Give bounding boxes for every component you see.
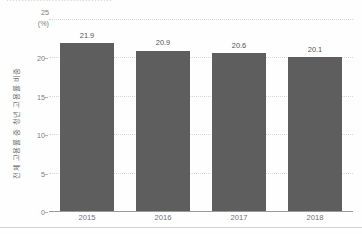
bar-2017[interactable]	[212, 53, 265, 211]
bar-slot-2018: 20.1	[277, 19, 353, 211]
y-axis-top-value: 25	[31, 8, 49, 19]
plot-area: 05101520 21.920.920.620.1	[49, 19, 353, 211]
y-tick-mark-20	[45, 58, 48, 59]
cut-off-title-strip: ···································	[0, 0, 362, 7]
bar-chart-figure: ··································· 25 (…	[0, 0, 362, 234]
x-axis-label-2017: 2017	[201, 213, 277, 222]
gridline-0: 0	[49, 211, 353, 212]
bar-value-label-2017: 20.6	[232, 41, 246, 50]
y-tick-mark-10	[45, 135, 48, 136]
bar-2015[interactable]	[60, 43, 113, 211]
bar-2018[interactable]	[288, 57, 341, 211]
bar-slot-2015: 21.9	[49, 19, 125, 211]
y-tick-mark-5	[45, 174, 48, 175]
y-axis-title-wrapper: 전체 고용률 중 청년 고용률 비중	[7, 48, 23, 198]
x-axis-label-2016: 2016	[125, 213, 201, 222]
bar-value-label-2018: 20.1	[308, 45, 322, 54]
bar-slot-2016: 20.9	[125, 19, 201, 211]
y-tick-mark-15	[45, 97, 48, 98]
bottom-divider	[0, 227, 362, 228]
x-axis-label-2018: 2018	[277, 213, 353, 222]
bars-group: 21.920.920.620.1	[49, 19, 353, 211]
bar-value-label-2016: 20.9	[156, 38, 170, 47]
y-tick-label-10: 10	[37, 131, 45, 140]
y-tick-label-0: 0	[41, 208, 45, 217]
y-axis-unit-block: 25 (%)	[31, 8, 49, 29]
bar-2016[interactable]	[136, 51, 189, 212]
y-tick-label-20: 20	[37, 54, 45, 63]
y-tick-label-15: 15	[37, 92, 45, 101]
x-axis-labels: 2015201620172018	[49, 213, 353, 222]
x-axis-label-2015: 2015	[49, 213, 125, 222]
y-tick-label-5: 5	[41, 169, 45, 178]
y-tick-mark-0	[45, 212, 48, 213]
y-axis-title: 전체 고용률 중 청년 고용률 비중	[10, 67, 21, 179]
bar-value-label-2015: 21.9	[80, 31, 94, 40]
bar-slot-2017: 20.6	[201, 19, 277, 211]
y-axis-unit-label: (%)	[31, 19, 49, 30]
cut-off-title-text: ···································	[6, 0, 112, 5]
